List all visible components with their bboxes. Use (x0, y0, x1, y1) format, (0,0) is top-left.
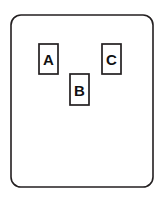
node-label-b: B (74, 82, 85, 99)
node-group-a[interactable]: A (39, 44, 58, 74)
node-label-c: C (106, 51, 117, 68)
diagram-canvas: A B C (0, 0, 165, 200)
node-group-c[interactable]: C (102, 44, 121, 74)
node-label-a: A (43, 51, 54, 68)
node-group-b[interactable]: B (70, 74, 89, 105)
diagram-svg: A B C (0, 0, 165, 200)
